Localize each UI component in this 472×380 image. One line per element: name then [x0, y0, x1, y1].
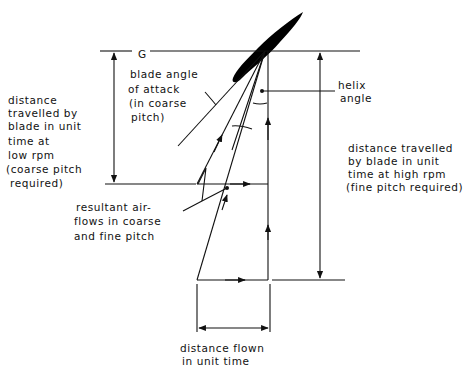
- svg-text:travelled by: travelled by: [8, 107, 78, 119]
- svg-text:low rpm: low rpm: [8, 149, 55, 161]
- resultant-fine-arrow: [222, 195, 227, 210]
- resultant-fine-line: [197, 51, 265, 280]
- propeller-pitch-diagram: G blade angle of attack (in coarse pitch…: [0, 0, 472, 380]
- svg-text:blade angle: blade angle: [130, 68, 198, 80]
- high-rpm-label: distance travelled by blade in unit time…: [346, 142, 463, 193]
- helix-angle-arc: [253, 103, 267, 104]
- svg-text:time at high rpm: time at high rpm: [348, 168, 446, 180]
- svg-text:(in coarse: (in coarse: [129, 97, 187, 109]
- svg-text:distance flown: distance flown: [180, 342, 265, 354]
- svg-text:of attack: of attack: [128, 83, 180, 95]
- svg-text:blade in unit: blade in unit: [8, 120, 82, 132]
- blade-chord-extension: [178, 51, 265, 146]
- rotation-symbol: G: [138, 48, 147, 60]
- svg-text:time at: time at: [8, 135, 50, 147]
- resultant-coarse-arrow: [214, 135, 222, 152]
- svg-text:by blade in unit: by blade in unit: [348, 155, 440, 167]
- svg-text:pitch): pitch): [131, 111, 165, 123]
- blade-angle-pointer: [205, 92, 216, 105]
- distance-flown-label: distance flown in unit time: [180, 342, 265, 367]
- svg-text:required): required): [10, 177, 64, 189]
- svg-text:(coarse pitch: (coarse pitch: [6, 163, 82, 175]
- svg-text:helix: helix: [338, 79, 366, 91]
- svg-text:distance travelled: distance travelled: [348, 142, 453, 154]
- svg-text:angle: angle: [340, 92, 372, 104]
- svg-text:flows in coarse: flows in coarse: [74, 215, 161, 227]
- svg-text:resultant air-: resultant air-: [76, 201, 151, 213]
- svg-text:(fine pitch required): (fine pitch required): [346, 181, 463, 193]
- helix-angle-label: helix angle: [338, 79, 372, 104]
- low-rpm-label: distance travelled by blade in unit time…: [6, 94, 82, 189]
- svg-text:and fine pitch: and fine pitch: [74, 230, 155, 242]
- svg-text:in unit time: in unit time: [182, 355, 250, 367]
- resultant-label: resultant air- flows in coarse and fine …: [74, 201, 161, 242]
- svg-text:distance: distance: [8, 94, 57, 106]
- blade-angle-label: blade angle of attack (in coarse pitch): [128, 68, 198, 123]
